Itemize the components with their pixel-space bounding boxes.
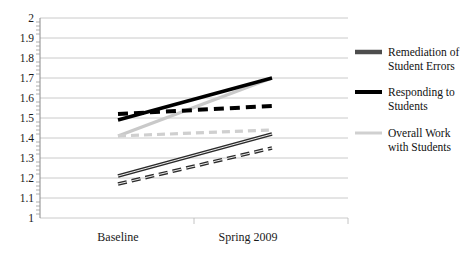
- line-chart: 2 1.9 1.8 1.7 1.6 1.5 1.4 1.3 1.2 1.1 1 …: [0, 0, 469, 257]
- legend-item-remediation: Remediation of Student Errors: [388, 45, 459, 73]
- legend-item-overall: Overall Work with Students: [388, 126, 451, 154]
- legend-item-responding: Responding to Students: [388, 85, 455, 113]
- legend-label-line-2: Student Errors: [388, 59, 459, 73]
- legend-label-line-1: Overall Work: [388, 126, 451, 140]
- legend-label-line-2: Students: [388, 99, 455, 113]
- gridlines: [40, 18, 348, 218]
- legend-label-line-1: Remediation of: [388, 45, 459, 59]
- series-line-overall-dashed: [118, 130, 272, 136]
- legend-label-line-1: Responding to: [388, 85, 455, 99]
- legend-label-line-2: with Students: [388, 140, 451, 154]
- y-axis-minor-ticks: [36, 22, 40, 214]
